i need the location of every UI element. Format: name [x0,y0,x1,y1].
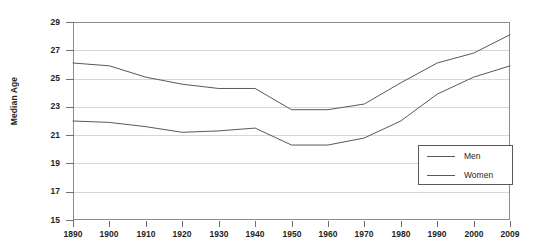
y-axis-tick [66,163,74,164]
plot-area [73,22,510,220]
y-axis-tick [66,22,74,23]
x-axis-tick [364,221,365,227]
y-axis-label: 15 [20,216,60,225]
x-axis-tick [437,221,438,227]
gridline [74,79,509,80]
y-axis-label: 27 [20,46,60,55]
y-axis-tick [66,107,74,108]
x-axis-tick [182,221,183,227]
gridline [74,192,509,193]
x-axis-tick [401,221,402,227]
y-axis-label: 21 [20,131,60,140]
y-axis-tick [66,135,74,136]
x-axis-tick [109,221,110,227]
y-axis-tick [66,79,74,80]
gridline [74,50,509,51]
legend-item-men: Men [419,146,514,166]
y-axis-label: 29 [20,18,60,27]
y-axis-tick [66,192,74,193]
legend-label-women: Women [464,170,493,180]
x-axis-label: 2009 [488,230,532,239]
y-axis-title: Median Age [9,61,19,141]
legend-label-men: Men [464,151,481,161]
x-axis-tick [292,221,293,227]
x-axis-tick [328,221,329,227]
y-axis-tick [66,50,74,51]
y-axis-label: 17 [20,187,60,196]
gridline [74,135,509,136]
x-axis-tick [219,221,220,227]
legend-line-icon-women [427,175,455,176]
x-axis-tick [474,221,475,227]
legend-line-icon-men [427,156,455,157]
y-axis-label: 19 [20,159,60,168]
y-axis-label: 25 [20,74,60,83]
median-age-line-chart: Median Age 2927252321191715 189019001910… [0,0,538,246]
x-axis-tick [73,221,74,227]
legend-item-women: Women [419,165,514,185]
gridline [74,107,509,108]
x-axis-tick [255,221,256,227]
x-axis-tick [146,221,147,227]
y-axis-label: 23 [20,102,60,111]
x-axis-tick [510,221,511,227]
chart-legend: Men Women [418,145,513,185]
